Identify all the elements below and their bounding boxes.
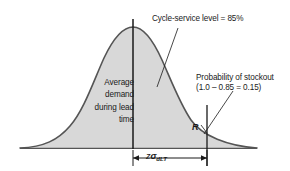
sigma-subscript: dLT (156, 156, 167, 162)
stockout-label-line1: Probability of stockout (196, 73, 274, 83)
reorder-point-diagram: Cycle-service level = 85% Probability of… (0, 0, 290, 171)
stockout-probability-label: Probability of stockout (1.0 – 0.85 = 0.… (196, 73, 274, 93)
stockout-leader-line (204, 91, 233, 134)
stockout-label-line2: (1.0 – 0.85 = 0.15) (196, 83, 274, 93)
cycle-service-level-label: Cycle-service level = 85% (152, 14, 243, 24)
z-sigma-dimension-arrow (133, 150, 207, 166)
z-sigma-dlt-label: zσdLT (146, 151, 167, 164)
reorder-point-label: R (192, 122, 198, 132)
average-demand-lead-time-label: Average demand during lead time (88, 77, 134, 127)
